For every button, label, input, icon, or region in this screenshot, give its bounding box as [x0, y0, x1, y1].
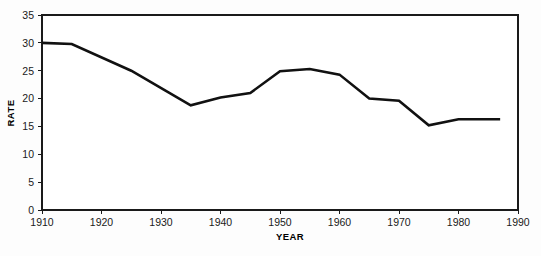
y-tick-label-20: 20 [22, 92, 34, 104]
plot-frame [42, 15, 518, 210]
x-tick-label-1990: 1990 [506, 216, 530, 228]
x-tick-label-1980: 1980 [447, 216, 471, 228]
x-axis-title: YEAR [276, 231, 304, 242]
x-tick-label-1910: 1910 [30, 216, 54, 228]
y-tick-label-30: 30 [22, 37, 34, 49]
y-tick-label-15: 15 [22, 120, 34, 132]
y-axis-title: RATE [5, 100, 16, 127]
x-tick-label-1960: 1960 [328, 216, 352, 228]
x-axis-tick-labels: 191019201930194019501960197019801990 [30, 216, 530, 228]
x-tick-label-1970: 1970 [387, 216, 411, 228]
y-tick-label-25: 25 [22, 65, 34, 77]
x-tick-label-1950: 1950 [268, 216, 292, 228]
y-tick-label-10: 10 [22, 148, 34, 160]
chart-container: 05101520253035 1910192019301940195019601… [0, 0, 541, 256]
y-tick-label-5: 5 [28, 176, 34, 188]
line-chart: 05101520253035 1910192019301940195019601… [0, 0, 541, 256]
x-tick-label-1930: 1930 [149, 216, 173, 228]
x-tick-label-1920: 1920 [90, 216, 114, 228]
x-tick-label-1940: 1940 [209, 216, 233, 228]
y-tick-label-0: 0 [28, 204, 34, 216]
y-tick-label-35: 35 [22, 9, 34, 21]
